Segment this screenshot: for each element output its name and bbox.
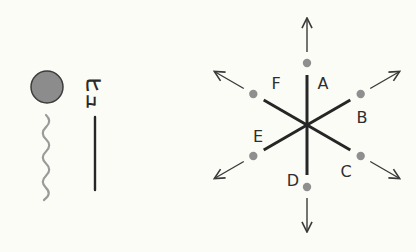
arrow-icon-f (214, 72, 243, 89)
spoke-label-c: C (340, 162, 351, 181)
spoke-line-b (307, 100, 350, 125)
spoke-line-c (307, 125, 350, 150)
six-direction-diagram: ABCDEF (214, 18, 399, 232)
spoke-label-e: E (253, 127, 263, 146)
endpoint-dot-f (249, 90, 257, 98)
spoke-label-a: A (318, 74, 329, 93)
falling-ball-illustration: ヒュ (31, 71, 103, 200)
spoke-label-b: B (357, 108, 368, 127)
endpoint-dot-e (249, 152, 257, 160)
arrow-icon-c (370, 162, 399, 179)
endpoint-dot-b (356, 90, 364, 98)
spoke-line-e (264, 125, 307, 150)
arrow-icon-b (370, 72, 399, 89)
spoke-line-f (264, 100, 307, 125)
sound-effect-text: ヒュ (83, 76, 103, 110)
spoke-label-d: D (287, 171, 299, 190)
endpoint-dot-d (303, 183, 311, 191)
diagram-canvas: ヒュ ABCDEF (0, 0, 416, 252)
arrow-icon-e (214, 162, 243, 179)
wavy-trail-line (43, 115, 49, 200)
ball (31, 71, 63, 103)
endpoint-dot-a (303, 59, 311, 67)
spoke-labels: ABCDEF (253, 74, 368, 190)
spoke-label-f: F (271, 74, 280, 93)
endpoint-dot-c (356, 152, 364, 160)
